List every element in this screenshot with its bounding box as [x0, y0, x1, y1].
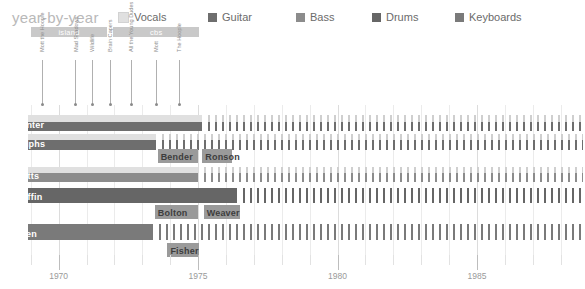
member-name-hunter: Hunter: [14, 121, 44, 130]
legend-item-bass[interactable]: Bass: [296, 11, 334, 23]
member-name-griffin: Griffin: [14, 193, 42, 202]
legend-label: Guitar: [222, 11, 252, 23]
timeline-bar-griffin-drums[interactable]: [28, 188, 237, 203]
member-name-bender: Bender: [161, 153, 193, 162]
album-stem: [156, 60, 157, 105]
album-label: The Hoople: [176, 23, 182, 52]
legend-item-keyboards[interactable]: Keyboards: [455, 11, 522, 23]
legend-label: Drums: [386, 11, 418, 23]
axis-tick: [421, 255, 422, 265]
member-name-ralphs: Ralphs: [14, 140, 45, 149]
axis-tick-label: 1970: [49, 271, 68, 281]
timeline-plot-area: HunterRalphsBenderRonsonWattsGriffinBolt…: [0, 105, 585, 255]
legend-label: Vocals: [134, 11, 166, 23]
legend-swatch-icon: [455, 13, 464, 22]
axis-tick-label: 1980: [328, 271, 347, 281]
legend-label: Bass: [310, 11, 334, 23]
timeline-bar-griffin-drums[interactable]: [243, 188, 583, 203]
legend-item-drums[interactable]: Drums: [372, 11, 418, 23]
album-stem: [131, 60, 132, 105]
era-bar-cbs[interactable]: cbs: [113, 27, 199, 37]
album-label: Mott: [153, 41, 159, 52]
member-name-ronson: Ronson: [205, 153, 240, 162]
album-stem: [179, 60, 180, 105]
axis-tick: [59, 255, 60, 270]
member-name-bolton: Bolton: [158, 209, 188, 218]
axis-tick: [449, 255, 450, 265]
timeline-bar-hunter-guitar[interactable]: [208, 122, 583, 131]
axis-tick: [254, 255, 255, 265]
axis-tick: [338, 255, 339, 270]
axis-tick: [114, 255, 115, 265]
axis-tick-label: 1985: [468, 271, 487, 281]
axis-tick: [31, 255, 32, 265]
timeline-bar-watts-bass[interactable]: [204, 173, 583, 182]
timeline-bar-hunter-vocals[interactable]: [208, 115, 583, 122]
axis-tick: [505, 255, 506, 265]
axis-tick: [142, 255, 143, 265]
album-label: Mad Shadows: [73, 17, 79, 52]
axis-tick: [170, 255, 171, 265]
album-label: All the Young Dudes: [128, 2, 134, 52]
timeline-bar-watts-bass[interactable]: [28, 173, 198, 182]
axis-tick: [87, 255, 88, 265]
legend-swatch-icon: [296, 13, 305, 22]
page-title: year-by-year: [12, 9, 99, 26]
album-label: Wildlife: [89, 34, 95, 52]
legend-item-guitar[interactable]: Guitar: [208, 11, 252, 23]
legend-swatch-icon: [208, 13, 217, 22]
album-label: Mott the Hoople: [39, 13, 45, 53]
member-name-weaver: Weaver: [207, 209, 240, 218]
axis-tick: [198, 255, 199, 270]
album-stem: [110, 60, 111, 105]
year-by-year-timeline-chart: year-by-year VocalsGuitarBassDrumsKeyboa…: [0, 0, 585, 289]
timeline-bar-hunter-vocals[interactable]: [28, 115, 202, 122]
album-stem: [75, 60, 76, 105]
legend-label: Keyboards: [469, 11, 522, 23]
legend-swatch-icon: [372, 13, 381, 22]
axis-tick: [533, 255, 534, 265]
album-stem: [42, 60, 43, 105]
axis-tick: [282, 255, 283, 265]
album-label: Brain Capers: [107, 19, 113, 52]
axis-tick: [561, 255, 562, 265]
timeline-bar-allen-keyboards[interactable]: [159, 224, 583, 240]
axis-tick: [365, 255, 366, 265]
member-name-allen: Allen: [14, 230, 37, 239]
x-axis-years: 1970197519801985: [0, 255, 585, 289]
timeline-bar-allen-keyboards[interactable]: [28, 224, 154, 240]
axis-tick: [393, 255, 394, 265]
axis-tick: [310, 255, 311, 265]
legend-item-vocals[interactable]: Vocals: [118, 11, 166, 23]
timeline-bar-ralphs-guitar[interactable]: [28, 140, 156, 150]
timeline-bar-hunter-guitar[interactable]: [28, 122, 202, 131]
axis-tick: [477, 255, 478, 270]
member-name-watts: Watts: [14, 172, 39, 181]
axis-tick: [226, 255, 227, 265]
album-stem: [92, 60, 93, 105]
axis-tick-label: 1975: [189, 271, 208, 281]
